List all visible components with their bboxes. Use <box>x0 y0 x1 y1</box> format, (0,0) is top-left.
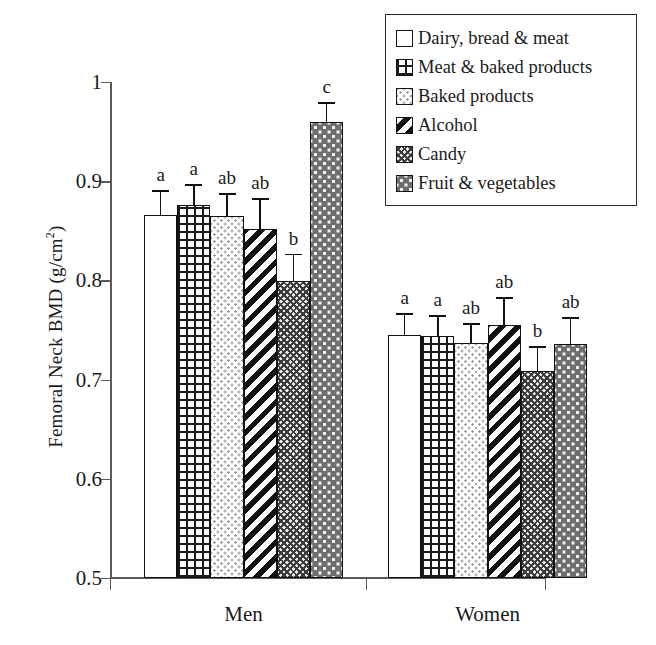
x-axis-group-label: Men <box>224 602 263 627</box>
error-bar-stem <box>160 190 162 215</box>
significance-letter: c <box>322 76 330 98</box>
significance-letter: ab <box>251 172 269 194</box>
legend-item-label: Candy <box>418 145 466 164</box>
legend-item-label: Baked products <box>418 87 534 106</box>
significance-letter: a <box>400 287 408 309</box>
significance-letter: a <box>434 289 442 311</box>
bar <box>144 215 177 578</box>
legend-item-label: Alcohol <box>418 116 478 135</box>
legend-swatch-icon <box>396 88 413 105</box>
error-bar-cap <box>219 193 236 195</box>
y-axis-tick-label: 0.5 <box>48 566 102 591</box>
significance-letter: ab <box>462 297 480 319</box>
y-axis-tick-label: 0.9 <box>48 169 102 194</box>
error-bar-stem <box>259 198 261 229</box>
error-bar-stem <box>503 297 505 325</box>
y-axis-line <box>110 82 112 579</box>
error-bar-stem <box>326 102 328 122</box>
legend-item: Meat & baked products <box>396 53 636 82</box>
x-axis-tick-right <box>545 578 546 590</box>
x-axis-group-label: Women <box>455 602 520 627</box>
bar <box>488 325 521 578</box>
error-bar-cap <box>185 184 202 186</box>
legend-item: Baked products <box>396 82 636 111</box>
x-axis-tick-left <box>110 578 111 590</box>
bar <box>277 281 310 578</box>
legend-item-label: Meat & baked products <box>418 58 592 77</box>
legend-item: Alcohol <box>396 111 636 140</box>
bar <box>310 122 343 578</box>
error-bar-cap <box>562 317 579 319</box>
error-bar-cap <box>152 190 169 192</box>
legend-swatch-icon <box>396 30 413 47</box>
error-bar-cap <box>252 198 269 200</box>
significance-letter: ab <box>218 167 236 189</box>
legend-item-label: Fruit & vegetables <box>418 174 556 193</box>
significance-letter: ab <box>562 291 580 313</box>
x-axis-tick-middle <box>366 578 367 590</box>
bar <box>554 344 587 578</box>
error-bar-stem <box>293 254 295 282</box>
bar <box>454 343 487 578</box>
bar <box>210 216 243 578</box>
bar <box>388 335 421 578</box>
error-bar-cap <box>529 346 546 348</box>
y-axis-tick-labels: 0.50.60.70.80.91 <box>48 0 102 645</box>
bar <box>421 336 454 578</box>
error-bar-cap <box>396 313 413 315</box>
y-axis-tick-label: 0.7 <box>48 367 102 392</box>
error-bar-stem <box>193 184 195 205</box>
error-bar-stem <box>470 323 472 343</box>
error-bar-stem <box>537 346 539 371</box>
legend-swatch-icon <box>396 175 413 192</box>
y-axis-tick-label: 1 <box>48 70 102 95</box>
y-axis-tick-label: 0.6 <box>48 466 102 491</box>
significance-letter: a <box>156 164 164 186</box>
significance-letter: b <box>289 228 299 250</box>
legend-item: Fruit & vegetables <box>396 169 636 198</box>
legend-item: Candy <box>396 140 636 169</box>
legend-item: Dairy, bread & meat <box>396 24 636 53</box>
error-bar-stem <box>570 317 572 344</box>
bar <box>521 371 554 578</box>
bar-chart-figure: Femoral Neck BMD (g/cm2) 0.50.60.70.80.9… <box>0 0 656 645</box>
bar <box>244 229 277 578</box>
legend-swatch-icon <box>396 146 413 163</box>
legend-swatch-icon <box>396 117 413 134</box>
error-bar-cap <box>496 297 513 299</box>
significance-letter: a <box>190 158 198 180</box>
error-bar-stem <box>404 313 406 335</box>
legend-swatch-icon <box>396 59 413 76</box>
error-bar-cap <box>429 315 446 317</box>
error-bar-stem <box>226 193 228 216</box>
error-bar-cap <box>285 254 302 256</box>
error-bar-cap <box>463 323 480 325</box>
legend-item-label: Dairy, bread & meat <box>418 29 569 48</box>
y-axis-tick-label: 0.8 <box>48 268 102 293</box>
error-bar-stem <box>437 315 439 336</box>
legend-box: Dairy, bread & meatMeat & baked products… <box>385 14 637 206</box>
significance-letter: b <box>533 320 543 342</box>
error-bar-cap <box>318 102 335 104</box>
bar <box>177 205 210 578</box>
significance-letter: ab <box>495 271 513 293</box>
